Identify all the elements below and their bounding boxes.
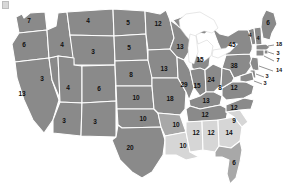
state-shape-sd[interactable] [114,34,148,61]
state-label-ks: 10 [133,95,140,102]
state-label-ut: 4 [66,85,69,92]
state-label-nm: 3 [93,119,96,126]
state-label-ky: 13 [203,98,210,105]
state-shapes-group [12,9,277,184]
state-label-ny: 45 [229,42,236,49]
state-label-oh: 24 [208,77,215,84]
state-label-la: 10 [180,143,187,150]
map-svg [0,0,295,191]
state-shape-ri[interactable] [264,50,268,54]
state-label-mi: 15 [197,57,204,64]
state-label-sd: 5 [127,45,130,52]
state-label-ok: 10 [140,116,147,123]
state-label-in: 15 [194,83,201,90]
state-label-md: 3 [264,81,267,87]
state-label-ct: 7 [277,58,280,64]
state-label-nj: 14 [276,68,282,74]
state-label-il: 29 [181,82,188,89]
state-shape-ne[interactable] [115,60,152,86]
state-label-ga: 14 [226,130,233,137]
state-shape-tx[interactable] [112,125,165,178]
leader-line-ct [264,56,274,61]
state-label-mt: 4 [86,18,89,25]
state-label-id: 4 [60,42,63,49]
state-shape-mn[interactable] [145,10,174,50]
state-label-va: 12 [231,85,238,92]
state-label-nh: 4 [257,36,260,42]
state-label-nd: 5 [126,20,129,27]
state-label-mo: 18 [167,96,174,103]
state-label-sc: 9 [232,118,235,125]
state-label-de: 3 [266,74,269,80]
state-label-nc: 12 [231,105,238,112]
state-label-al: 12 [208,130,215,137]
state-label-pa: 38 [231,63,238,70]
state-label-ms: 12 [193,130,200,137]
state-label-or: 6 [22,42,25,49]
state-shape-nj[interactable] [250,57,259,71]
us-electoral-map: 7 6 13 3 4 4 3 4 3 6 3 5 5 8 10 10 20 12… [0,0,295,191]
state-label-nv: 3 [40,76,43,83]
state-label-az: 3 [62,118,65,125]
state-label-wi: 13 [177,44,184,51]
state-label-ia: 13 [161,66,168,73]
state-label-co: 6 [97,86,100,93]
state-label-fl: 6 [232,160,235,167]
state-shape-ms[interactable] [186,121,203,152]
state-shape-nm[interactable] [81,101,116,137]
leader-line-de [256,74,264,77]
state-label-vt: 4 [249,33,252,39]
state-label-me: 6 [266,20,269,27]
state-label-wy: 3 [91,49,94,56]
state-shape-ct[interactable] [256,50,264,56]
state-label-ar: 10 [173,122,180,129]
state-label-ne: 8 [129,72,132,79]
state-label-wv: 8 [218,85,221,92]
leader-line-md [254,81,262,84]
state-shape-fl[interactable] [215,141,242,184]
state-label-tn: 12 [202,112,209,119]
state-label-ma: 18 [276,42,282,48]
leader-line-ri [268,52,274,54]
state-shape-mt[interactable] [67,9,114,36]
state-shape-or[interactable] [12,30,49,62]
state-shape-wa[interactable] [16,12,47,33]
leader-line-nj [259,66,273,71]
state-label-wa: 7 [27,18,30,25]
state-label-ca: 13 [19,91,26,98]
state-label-tx: 20 [127,145,134,152]
state-label-ri: 3 [277,51,280,57]
state-label-mn: 12 [155,21,162,28]
